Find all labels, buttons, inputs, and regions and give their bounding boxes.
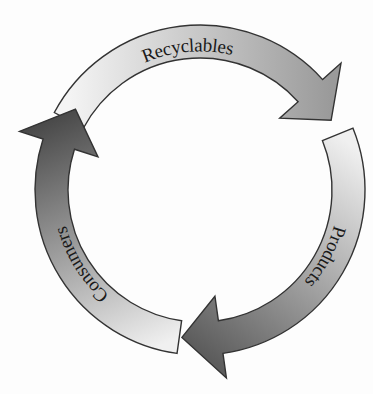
arrow-products: Products (182, 128, 365, 378)
recycling-cycle-diagram: RecyclablesProductsConsumers Recyclables… (0, 0, 373, 394)
cycle-svg: RecyclablesProductsConsumers (0, 0, 373, 394)
arrow-consumers: Consumers (20, 109, 182, 353)
arrow-recyclables: Recyclables (54, 25, 341, 128)
curved-arrow-icon (20, 109, 182, 353)
